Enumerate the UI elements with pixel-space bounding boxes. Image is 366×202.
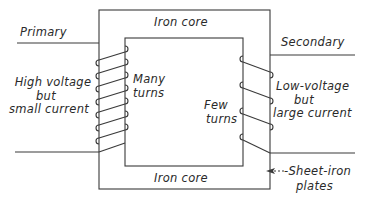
label-secondary-desc-3: large current (273, 107, 352, 119)
label-primary-desc-2: but (8, 90, 84, 102)
label-many-turns-1: Many (133, 73, 165, 85)
secondary-coil (240, 56, 273, 153)
label-sheet-iron-1: -Sheet-iron (284, 165, 351, 177)
label-iron-core-bottom: Iron core (154, 172, 208, 184)
primary-coil (96, 46, 128, 152)
label-few-turns-2: turns (206, 113, 237, 125)
label-sheet-iron-2: plates (296, 180, 333, 192)
sheet-iron-arrow (266, 168, 284, 174)
label-few-turns-1: Few (204, 99, 228, 111)
label-primary: Primary (20, 26, 67, 38)
label-primary-desc-3: small current (9, 103, 89, 115)
label-iron-core-top: Iron core (154, 16, 208, 28)
label-many-turns-2: turns (133, 87, 164, 99)
label-primary-desc-1: High voltage (8, 76, 98, 88)
label-secondary-desc-1: Low-voltage (276, 80, 349, 92)
label-sheet-iron-text: Sheet-iron (288, 164, 351, 178)
label-secondary-desc-2: but (294, 94, 314, 106)
label-secondary: Secondary (281, 36, 345, 48)
